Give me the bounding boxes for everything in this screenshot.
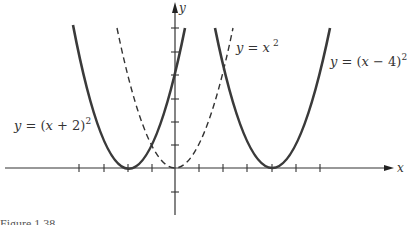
label-x-minus-4-squared: y = (x − 4)2 <box>329 52 407 69</box>
y-axis-arrow-icon <box>172 2 178 13</box>
curve-x-plus-2-squared <box>73 25 185 169</box>
x-axis-arrow-icon <box>384 165 394 171</box>
label-x-squared: y = x2 <box>235 38 279 55</box>
curve-x-minus-4-squared <box>215 28 330 168</box>
x-axis: x <box>5 161 404 175</box>
parabola-shift-diagram: x y <box>0 0 408 225</box>
y-axis-label: y <box>178 1 186 15</box>
x-axis-label: x <box>397 161 404 175</box>
label-x-plus-2-squared: y = (x + 2)2 <box>13 116 91 133</box>
figure-caption: Figure 1.38 <box>0 217 55 225</box>
